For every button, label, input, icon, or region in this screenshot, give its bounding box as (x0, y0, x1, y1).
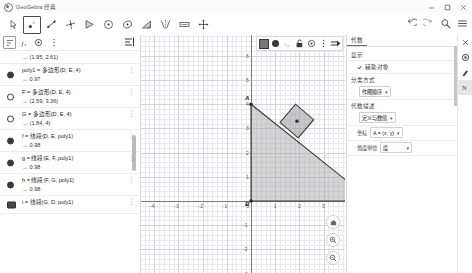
angle-unit-row: 角度单位 度 ▾ (347, 141, 457, 156)
point-style-icon[interactable] (270, 38, 281, 49)
visibility-toggle[interactable] (7, 181, 14, 188)
zoom-in-button[interactable] (326, 233, 340, 247)
hamburger-menu-icon[interactable] (456, 17, 468, 29)
geometry-layer (141, 35, 345, 273)
move-tool[interactable] (4, 16, 22, 34)
search-icon[interactable] (439, 17, 451, 29)
svg-text:a: a (288, 44, 290, 48)
angle-unit-dropdown-value: 度 (383, 144, 388, 152)
ellipse-tool[interactable] (118, 16, 136, 34)
coordinate-dropdown[interactable]: A = (x, y) ▾ (370, 127, 403, 138)
description-dropdown-wrap: 定义与数值 ▾ (347, 111, 457, 126)
algebra-item-value: →(2.59, 3.36) (22, 97, 126, 105)
algebra-panel: fx →(1.95, 2.61) ⋮ poly1 = 多边形(D, E, 4) … (0, 35, 141, 273)
svg-text:A: A (31, 21, 35, 25)
more-vertical-icon[interactable] (318, 38, 329, 49)
tools-icon[interactable] (458, 65, 472, 80)
sort-dropdown[interactable]: 作图顺序 ▾ (359, 86, 391, 97)
title-bar: GeoGebra 经典 (0, 0, 471, 15)
line-tool[interactable] (42, 16, 60, 34)
sort-section-label: 分类方式 (347, 74, 457, 85)
perpendicular-line-tool[interactable] (61, 16, 79, 34)
coordinate-row: 坐标 A = (x, y) ▾ (347, 126, 457, 141)
algebra-item-list[interactable]: →(1.95, 2.61) ⋮ poly1 = 多边形(D, E, 4) →0.… (0, 51, 140, 273)
lock-icon[interactable] (294, 38, 305, 49)
row-menu-icon[interactable]: ⋮ (128, 177, 135, 182)
description-dropdown[interactable]: 定义与数值 ▾ (359, 112, 396, 123)
visibility-toggle[interactable] (7, 93, 14, 100)
settings-body: 显示 辅助对象 分类方式 作图顺序 ▾ 代数描述 定义与数值 ▾ (347, 47, 457, 156)
maximize-button[interactable] (439, 1, 455, 14)
gear-icon[interactable] (306, 38, 317, 49)
center-point[interactable] (295, 119, 298, 122)
angle-unit-label: 角度单位 (357, 144, 377, 152)
coordinate-label: 坐标 (357, 129, 367, 137)
list-item[interactable]: ⋮ g = 线段(E, F, poly1) →0.98 (0, 152, 140, 174)
chevron-down-icon: ▾ (385, 89, 388, 95)
algebra-view-icon[interactable]: N (458, 80, 472, 95)
row-menu-icon[interactable]: ⋮ (128, 199, 135, 204)
algebra-item-equation: f = 线段(D, E, poly1) (22, 132, 126, 140)
circle-tool[interactable] (99, 16, 117, 34)
vertex-point[interactable] (249, 199, 253, 203)
redo-icon[interactable] (422, 17, 434, 29)
chevron-down-icon: ▾ (406, 145, 409, 151)
settings-panel: 代数 显示 辅助对象 分类方式 作图顺序 ▾ 代数描述 定义与数值 (346, 35, 457, 273)
visibility-toggle[interactable] (7, 201, 16, 208)
tab-algebra[interactable]: 代数 (347, 36, 367, 46)
color-swatch-icon[interactable] (258, 38, 269, 49)
check-icon (357, 65, 362, 70)
reflect-tool[interactable] (156, 16, 174, 34)
label-style-icon[interactable]: Aa (282, 38, 293, 49)
point-tool[interactable]: A (23, 16, 41, 34)
algebra-item-value: →0.98 (22, 163, 126, 171)
list-item[interactable]: ⋮ h = 线段(F, G, poly1) →0.98 (0, 174, 140, 196)
list-item[interactable]: ⋮ i = 线段(G, D, poly1) (0, 196, 140, 214)
undo-icon[interactable] (405, 17, 417, 29)
algebra-item-equation: poly1 = 多边形(D, E, 4) (22, 66, 126, 74)
gear-icon[interactable] (31, 36, 46, 50)
gear-icon[interactable] (458, 50, 472, 65)
list-item[interactable]: ⋮ G = 多边形(D, E, 4) →(1.84, 4) (0, 108, 140, 130)
toolbar-right-actions (405, 17, 468, 29)
collapse-arrow-icon[interactable] (330, 38, 341, 49)
angle-tool[interactable] (137, 16, 155, 34)
zoom-out-button[interactable] (326, 251, 340, 265)
minimize-button[interactable] (423, 1, 439, 14)
more-vertical-icon[interactable] (46, 36, 61, 50)
close-button[interactable] (455, 1, 471, 14)
polygon-tool[interactable] (80, 16, 98, 34)
chevron-down-icon: ▾ (390, 115, 393, 121)
algebra-item-value: →0.98 (22, 141, 126, 149)
settings-tabs: 代数 (347, 35, 457, 47)
function-icon[interactable]: fx (16, 36, 31, 50)
visibility-toggle[interactable] (7, 71, 14, 78)
visibility-toggle[interactable] (7, 159, 14, 166)
close-panel-icon[interactable] (458, 35, 472, 50)
list-item[interactable]: ⋮ f = 线段(D, E, poly1) →0.98 (0, 130, 140, 152)
auxiliary-objects-checkbox[interactable]: 辅助对象 (347, 61, 457, 74)
sort-icon[interactable] (3, 36, 16, 49)
keyboard-input-icon[interactable] (124, 37, 136, 48)
algebra-item-value: →0.98 (22, 185, 126, 193)
row-menu-icon[interactable]: ⋮ (128, 67, 135, 72)
row-menu-icon[interactable]: ⋮ (128, 89, 135, 94)
move-graphics-tool[interactable] (194, 16, 212, 34)
visibility-toggle[interactable] (7, 115, 14, 122)
text-tool[interactable] (175, 16, 193, 34)
svg-text:x: x (24, 42, 26, 47)
auxiliary-objects-label: 辅助对象 (365, 63, 389, 71)
visibility-toggle[interactable] (7, 137, 14, 144)
vertex-point[interactable] (249, 102, 253, 106)
list-item[interactable]: →(1.95, 2.61) (0, 51, 140, 64)
row-menu-icon[interactable]: ⋮ (128, 111, 135, 116)
graphics-view[interactable]: -6-5-4-3-2-1012345 7654321-1-2-3-4-5 ABC… (141, 35, 345, 273)
angle-unit-dropdown[interactable]: 度 ▾ (380, 142, 412, 153)
algebra-item-equation: G = 多边形(D, E, 4) (22, 110, 126, 118)
list-item[interactable]: ⋮ F = 多边形(D, E, 4) →(2.59, 3.36) (0, 86, 140, 108)
window-title: GeoGebra 经典 (16, 3, 56, 11)
algebra-scrollbar[interactable] (132, 135, 136, 171)
list-item[interactable]: ⋮ poly1 = 多边形(D, E, 4) →0.97 (0, 64, 140, 86)
home-button[interactable] (326, 215, 340, 229)
description-dropdown-value: 定义与数值 (362, 114, 387, 122)
